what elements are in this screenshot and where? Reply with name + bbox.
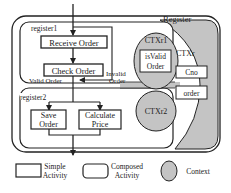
legend-simple-label-1: Simple xyxy=(44,162,66,171)
receive-order-label: Receive Order xyxy=(49,38,98,48)
save-order-label-2: Order xyxy=(39,120,58,129)
legend-simple-activity-swatch xyxy=(16,164,41,177)
calculate-price-label-2: Price xyxy=(92,120,109,129)
legend-composed-activity-swatch xyxy=(83,164,108,178)
legend-context-label: Context xyxy=(186,167,211,176)
legend-context-swatch xyxy=(161,161,177,181)
order-label: order xyxy=(184,89,200,98)
check-order-label: Check Order xyxy=(52,66,96,76)
invalid-label-2: Order xyxy=(109,77,126,85)
cno-label: Cno xyxy=(185,68,198,77)
legend-simple-label-2: Activity xyxy=(43,171,68,180)
ctxr2-label: CTXr2 xyxy=(145,107,168,116)
register2-label: register2 xyxy=(20,93,46,102)
save-order-label-1: Save xyxy=(41,111,57,120)
ctxr1-label: CTXr1 xyxy=(145,36,168,45)
legend-composed-label-1: Composed xyxy=(111,162,143,171)
ctxr-label: CTXr xyxy=(176,49,195,58)
isvalid-label: isValid xyxy=(145,52,166,61)
workflow-diagram: Register CTXr register1 register2 Receiv… xyxy=(0,0,231,193)
isvalid-order-label: Order xyxy=(147,62,165,71)
register1-label: register1 xyxy=(31,24,57,33)
legend-composed-label-2: Activity xyxy=(115,171,140,180)
valid-order-label: Valid Order xyxy=(29,77,63,85)
calculate-price-label-1: Calculate xyxy=(85,111,116,120)
